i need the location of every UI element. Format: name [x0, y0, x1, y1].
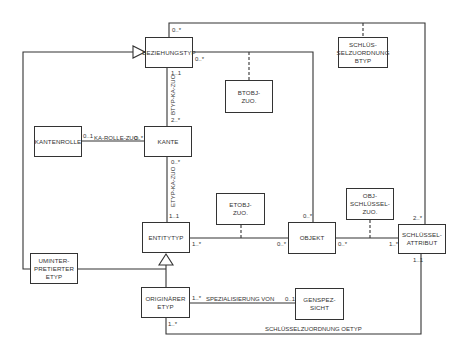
class-genspezsicht: GENSPEZ- SICHT [295, 288, 344, 320]
mult-kantenrolle-right: 0..1 [83, 133, 93, 140]
class-entitytyp: ENTITYTYP [142, 222, 190, 253]
mult-schluessel-top: 2..* [413, 215, 422, 222]
class-obj-schluessel-zuo: OBJ- SCHLÜSSEL- ZUO. [346, 188, 394, 220]
assoc-label-schluesselzuordnung-oetyp: SCHLÜSSELZUORDNUNG OETYP [265, 326, 362, 333]
assoc-label-etyp-ka-zuo: ETYP-KA-ZUO [170, 167, 177, 207]
assoc-schluesselzuordnung-oetyp [166, 254, 421, 334]
mult-kante-bottom: 0..* [171, 159, 180, 166]
class-schluesselzuordnung-btyp: SCHLÜS- SELZUORDNUNG BTYP [338, 37, 388, 68]
class-etobj-zuo: ETOBJ- ZUO. [216, 193, 265, 225]
class-uminterpretierter-etyp: UMINTER- PRETIERTER ETYP [30, 253, 78, 284]
class-btobj-zuo: BTOBJ- ZUO. [225, 80, 273, 113]
class-schluesselattribut: SCHLÜSSEL- ATTRIBUT [398, 224, 446, 254]
assoc-label-btyp-ka-zuo: BTYP-KA-ZUO [170, 75, 177, 115]
mult-entity-right: 1..* [192, 241, 201, 248]
mult-kante-left: 0..* [134, 135, 143, 142]
mult-objekt-right: 0..* [338, 241, 347, 248]
mult-bez-right: 0..* [195, 56, 204, 63]
mult-genspez-left: 0..1 [285, 296, 295, 303]
mult-orig-right: 1..* [192, 295, 201, 302]
class-objekt: OBJEKT [288, 222, 336, 254]
class-originaerer-etyp: ORIGINÄRER ETYP [141, 287, 190, 318]
class-beziehungstyp: BEZIEHUNGSTYP [145, 37, 193, 68]
class-kantenrolle: KANTENROLLE [34, 126, 82, 157]
mult-kante-top: 2..* [171, 117, 180, 124]
mult-bez-top: 0..* [172, 27, 181, 34]
mult-schluessel-left: 1..* [389, 241, 398, 248]
generalization-umint-bez [23, 52, 133, 269]
mult-objekt-left: 0..* [277, 241, 286, 248]
mult-orig-bottom: 1..* [168, 321, 177, 328]
mult-bez-bottom: 1..1 [171, 70, 181, 77]
mult-schluessel-bottom: 1..1 [413, 257, 423, 264]
assoc-label-spezialisierung-von: SPEZIALISIERUNG VON [206, 296, 274, 303]
generalization-arrow-entity [159, 254, 173, 265]
class-kante: KANTE [144, 126, 192, 157]
mult-entity-top: 1..1 [169, 213, 179, 220]
mult-objekt-top: 0..* [303, 213, 312, 220]
